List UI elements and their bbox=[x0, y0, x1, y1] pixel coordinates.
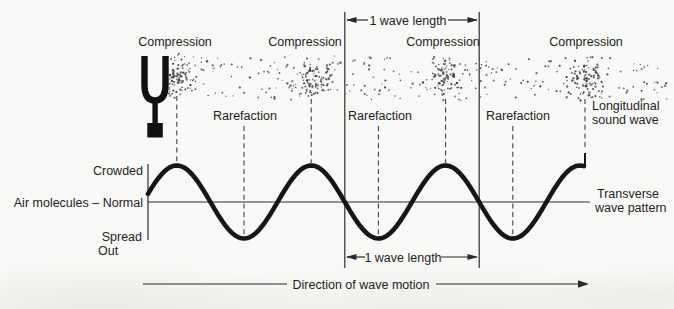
air-molecule-dot bbox=[169, 74, 171, 76]
air-molecule-dot bbox=[449, 88, 451, 90]
air-molecule-dot bbox=[441, 93, 443, 95]
air-molecule-dot bbox=[438, 82, 440, 84]
air-molecule-dot bbox=[462, 73, 464, 75]
air-molecule-dot bbox=[194, 88, 196, 90]
air-molecule-dot bbox=[419, 83, 421, 85]
air-molecule-dot bbox=[337, 63, 339, 65]
air-molecule-dot bbox=[315, 75, 317, 77]
air-molecule-dot bbox=[587, 88, 589, 90]
air-molecule-dot bbox=[393, 70, 395, 72]
air-molecule-dot bbox=[438, 64, 440, 66]
air-molecule-dot bbox=[579, 73, 581, 75]
air-molecule-dot bbox=[313, 73, 315, 75]
air-molecule-dot bbox=[584, 69, 585, 70]
air-molecule-dot bbox=[654, 82, 655, 83]
air-molecule-dot bbox=[422, 81, 424, 83]
air-molecule-dot bbox=[321, 84, 323, 86]
air-molecule-dot bbox=[438, 88, 440, 90]
air-molecule-dot bbox=[571, 79, 573, 81]
air-molecule-dot bbox=[592, 88, 594, 90]
air-molecule-dot bbox=[169, 95, 171, 97]
air-molecule-dot bbox=[318, 58, 320, 60]
air-molecule-dot bbox=[306, 90, 308, 92]
air-molecule-dot bbox=[328, 77, 330, 79]
air-molecule-dot bbox=[182, 67, 184, 69]
air-molecule-dot bbox=[169, 87, 171, 89]
air-molecule-dot bbox=[327, 68, 329, 70]
air-molecule-dot bbox=[447, 78, 449, 80]
tuning-fork-icon bbox=[145, 56, 166, 138]
air-molecule-dot bbox=[274, 62, 276, 64]
air-molecule-dot bbox=[548, 89, 549, 90]
air-molecule-dot bbox=[384, 79, 386, 81]
air-molecule-dot bbox=[364, 93, 366, 95]
air-molecule-dot bbox=[446, 75, 448, 77]
air-molecule-dot bbox=[178, 79, 179, 80]
air-molecule-dot bbox=[440, 75, 442, 77]
transverse-label-line1: Transverse bbox=[597, 187, 659, 201]
air-molecule-dot bbox=[212, 64, 214, 66]
air-molecule-dot bbox=[327, 83, 329, 85]
air-molecule-dot bbox=[585, 74, 586, 75]
air-molecule-dot bbox=[304, 85, 306, 87]
wavelength-top-label: 1 wave length bbox=[369, 14, 446, 28]
air-molecule-dot bbox=[314, 92, 316, 94]
air-molecule-dot bbox=[315, 86, 317, 88]
air-molecule-dot bbox=[261, 89, 262, 90]
air-molecule-dot bbox=[586, 65, 587, 66]
air-molecule-dot bbox=[260, 59, 262, 61]
air-molecule-dot bbox=[567, 80, 568, 81]
air-molecule-dot bbox=[484, 86, 486, 88]
tuning-fork-stem bbox=[152, 99, 157, 125]
air-molecule-dot bbox=[384, 86, 386, 88]
air-molecule-dot bbox=[570, 93, 572, 95]
air-molecule-dot bbox=[177, 64, 179, 66]
air-molecule-dot bbox=[292, 88, 293, 89]
air-molecule-dot bbox=[173, 75, 175, 77]
air-molecule-dot bbox=[585, 78, 586, 79]
air-molecule-dot bbox=[176, 72, 178, 74]
air-molecule-dot bbox=[232, 95, 233, 96]
air-molecule-dot bbox=[273, 97, 275, 99]
air-molecule-dot bbox=[186, 78, 188, 80]
air-molecule-dot bbox=[314, 70, 315, 71]
air-molecule-dot bbox=[177, 54, 179, 56]
air-molecule-dot bbox=[469, 74, 471, 76]
air-molecule-dot bbox=[595, 83, 597, 85]
air-molecule-dot bbox=[201, 57, 202, 58]
air-molecule-dot bbox=[322, 90, 324, 92]
air-molecule-dot bbox=[339, 62, 341, 64]
air-molecule-dot bbox=[297, 74, 299, 76]
air-molecule-dot bbox=[309, 90, 311, 92]
air-molecule-dot bbox=[441, 67, 443, 69]
air-molecule-dot bbox=[556, 70, 558, 72]
air-molecule-dot bbox=[447, 81, 448, 82]
air-molecule-dot bbox=[590, 85, 591, 86]
transverse-label: Transverse wave pattern bbox=[594, 187, 667, 215]
air-molecule-dot bbox=[189, 87, 191, 89]
air-molecule-dot bbox=[601, 81, 603, 83]
air-molecule-dot bbox=[308, 83, 310, 85]
air-molecule-dot bbox=[275, 87, 276, 88]
air-molecule-dot bbox=[492, 68, 494, 70]
air-molecule-dot bbox=[177, 81, 179, 83]
air-molecule-dot bbox=[189, 84, 191, 86]
air-molecule-dot bbox=[317, 84, 319, 86]
air-molecule-dot bbox=[181, 86, 183, 88]
air-molecule-dot bbox=[458, 93, 460, 95]
air-molecule-dot bbox=[491, 72, 493, 74]
compression-label-3: Compression bbox=[406, 35, 480, 49]
air-molecule-dot bbox=[515, 97, 517, 99]
air-molecule-dot bbox=[559, 91, 561, 93]
air-molecule-dot bbox=[217, 57, 219, 59]
air-molecule-dot bbox=[295, 84, 296, 85]
air-molecule-dot bbox=[192, 80, 194, 82]
air-molecule-dot bbox=[465, 97, 467, 99]
air-molecule-dot bbox=[626, 89, 628, 91]
air-molecule-dot bbox=[569, 68, 571, 70]
air-molecule-dot bbox=[515, 68, 517, 70]
air-molecule-dot bbox=[171, 80, 173, 82]
air-molecule-dot bbox=[182, 72, 184, 74]
air-molecule-dot bbox=[446, 65, 448, 67]
air-molecule-dot bbox=[237, 66, 238, 67]
